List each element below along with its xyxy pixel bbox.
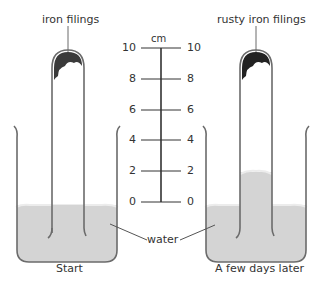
left-beaker bbox=[14, 126, 120, 262]
label-water: water bbox=[147, 233, 178, 246]
left-test-tube bbox=[48, 26, 86, 238]
tick-right-10: 10 bbox=[187, 41, 201, 54]
tick-right-0: 0 bbox=[187, 195, 194, 208]
tick-left-0: 0 bbox=[129, 195, 136, 208]
iron-filings bbox=[54, 52, 82, 80]
label-cm-unit: cm bbox=[151, 33, 166, 44]
tick-left-2: 2 bbox=[129, 164, 136, 177]
tick-left-6: 6 bbox=[129, 103, 136, 116]
tick-left-8: 8 bbox=[129, 72, 136, 85]
tick-right-8: 8 bbox=[187, 72, 194, 85]
tick-right-6: 6 bbox=[187, 103, 194, 116]
rusty-iron-filings bbox=[242, 52, 270, 80]
caption-few-days-later: A few days later bbox=[215, 262, 304, 275]
tick-left-10: 10 bbox=[122, 41, 136, 54]
label-iron-filings: iron filings bbox=[42, 13, 99, 26]
cm-scale bbox=[141, 48, 181, 202]
diagram: iron filings rusty iron filings cm 10 8 … bbox=[0, 0, 325, 282]
caption-start: Start bbox=[56, 262, 83, 275]
right-test-tube bbox=[236, 26, 274, 238]
label-rusty-iron-filings: rusty iron filings bbox=[217, 13, 306, 26]
tick-right-4: 4 bbox=[187, 133, 194, 146]
tick-left-4: 4 bbox=[129, 133, 136, 146]
tick-right-2: 2 bbox=[187, 164, 194, 177]
